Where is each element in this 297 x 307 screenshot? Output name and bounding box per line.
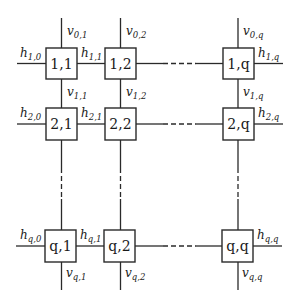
label-h-1-1: h1,1	[81, 46, 102, 62]
label-v-q-q: vq,q	[242, 266, 263, 282]
node-label: q,2	[108, 238, 130, 254]
node-label: q,q	[226, 238, 248, 254]
node-label: 2,2	[109, 116, 131, 132]
node-2-1: 2,1	[46, 108, 77, 140]
label-h-2-0: h2,0	[20, 106, 42, 122]
node-label: 2,1	[50, 116, 72, 132]
node-q-2: q,2	[104, 230, 135, 262]
node-q-1: q,1	[45, 230, 76, 262]
node-label: 1,1	[50, 56, 72, 72]
node-label: 2,q	[227, 116, 249, 132]
node-1-2: 1,2	[105, 48, 136, 79]
label-v-1-2: v1,2	[126, 85, 146, 101]
label-h-1-q: h1,q	[258, 46, 280, 62]
label-v-0-q: v0,q	[243, 24, 264, 40]
node-1-q: 1,q	[223, 48, 254, 79]
label-v-q-2: vq,2	[125, 266, 145, 282]
label-h-q-0: hq,0	[20, 228, 42, 244]
label-h-1-0: h1,0	[20, 46, 42, 62]
label-v-0-2: v0,2	[126, 24, 146, 40]
label-h-2-q: h2,q	[258, 106, 280, 122]
label-v-1-q: v1,q	[243, 85, 264, 101]
label-v-0-1: v0,1	[67, 24, 87, 40]
node-1-1: 1,1	[46, 48, 77, 79]
node-2-2: 2,2	[105, 108, 136, 140]
node-2-q: 2,q	[223, 108, 254, 140]
label-h-q-q: hq,q	[257, 228, 279, 244]
label-v-q-1: vq,1	[66, 266, 86, 282]
label-v-1-1: v1,1	[67, 85, 87, 101]
node-label: 1,2	[109, 56, 131, 72]
node-q-q: q,q	[222, 230, 253, 262]
node-label: 1,q	[227, 56, 249, 72]
label-h-2-1: h2,1	[81, 106, 102, 122]
label-h-q-1: hq,1	[80, 228, 101, 244]
grid-network-diagram: 1,1 1,2 1,q 2,1 2,2 2,q q,1 q,2 q,q v0,1…	[0, 0, 297, 307]
node-label: q,1	[49, 238, 71, 254]
